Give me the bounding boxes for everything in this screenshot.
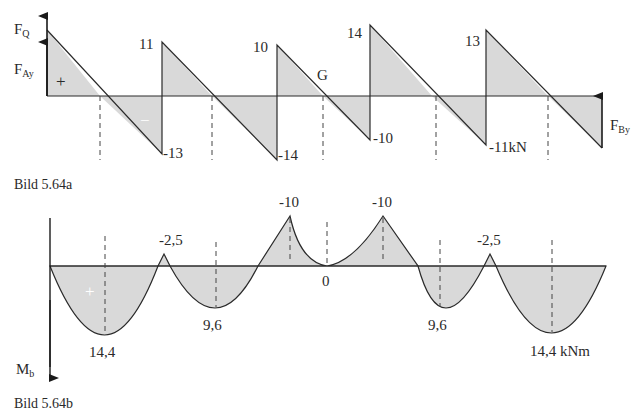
moment-positive-sign: + [85,283,95,300]
shear-value-11: 11 [139,37,153,52]
shear-value-14: 14 [347,26,362,41]
moment-value-minus-10-left: -10 [279,195,299,210]
caption-figure-a: Bild 5.64a [14,178,72,192]
mb-axis-label: Mb [16,362,34,379]
hinge-label-g: G [317,68,328,83]
shear-negative-sign: − [140,112,150,129]
moment-value-9-6-left: 9,6 [203,318,222,333]
moment-value-14-4-left: 14,4 [89,345,115,360]
moment-value-minus-10-right: -10 [372,195,392,210]
moment-value-14-4-knm: 14,4 kNm [530,344,590,359]
fq-axis-label: FQ [14,22,30,39]
shear-value-minus-13: -13 [163,146,183,161]
fay-label: FAy [14,62,34,79]
caption-figure-b: Bild 5.64b [14,397,73,411]
shear-positive-sign: + [56,73,66,90]
shear-value-10: 10 [253,40,268,55]
shear-value-minus-10: -10 [373,131,393,146]
moment-value-0: 0 [322,274,330,289]
bending-moment-diagram [50,216,606,378]
shear-value-13: 13 [465,34,480,49]
shear-value-minus-14: -14 [278,148,298,163]
moment-value-minus-2-5-left: -2,5 [159,233,183,248]
moment-value-minus-2-5-right: -2,5 [477,233,501,248]
moment-value-9-6-right: 9,6 [428,318,447,333]
fby-label: FBy [610,118,630,135]
shear-value-minus-11kn: -11kN [489,140,527,155]
